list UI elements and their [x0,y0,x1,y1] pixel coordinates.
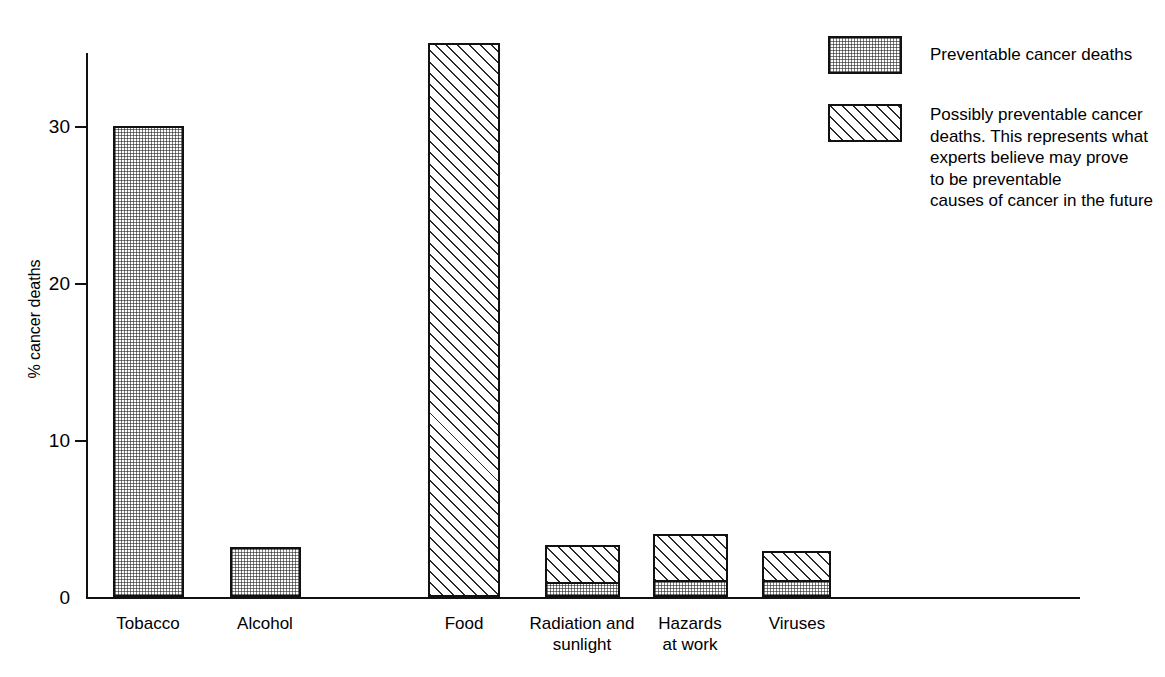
cancer-deaths-bar-chart: 30 20 10 0 % cancer deaths [0,0,1165,677]
y-tick-30 [75,126,88,128]
legend-item-preventable: Preventable cancer deaths [828,36,1158,74]
y-tick-10 [75,440,88,442]
y-axis-line [86,53,88,599]
y-tick-20 [75,283,88,285]
x-label-alcohol: Alcohol [205,613,325,634]
y-tick-label-30: 30 [26,117,70,136]
bar-viruses [762,551,831,597]
bar-radiation-and-sunlight [545,545,620,597]
y-tick-label-0-wrap: 0 [18,588,70,607]
bar-alcohol [230,547,301,597]
x-axis-line [86,597,1080,599]
hatch-swatch-icon [828,104,902,142]
y-tick-label-30-wrap: 30 [18,117,70,136]
bar-radiation-preventable-segment [547,582,618,595]
bar-viruses-preventable-segment [764,580,829,595]
y-tick-label-10-wrap: 10 [18,431,70,450]
bar-food-possibly-preventable-segment [430,45,498,595]
bar-hazards-possibly-preventable-segment [655,536,726,580]
legend-item-possibly-preventable: Possibly preventable cancer deaths. This… [828,104,1158,212]
legend-label-preventable: Preventable cancer deaths [930,36,1132,66]
y-tick-label-0: 0 [26,588,70,607]
dots-swatch-icon [828,36,902,74]
legend: Preventable cancer deaths Possibly preve… [828,36,1158,212]
y-tick-label-10: 10 [26,431,70,450]
bar-alcohol-preventable-segment [232,549,299,595]
y-axis-title: % cancer deaths [26,224,44,414]
bar-viruses-possibly-preventable-segment [764,553,829,580]
bar-food [428,43,500,597]
bar-hazards-preventable-segment [655,580,726,595]
bar-tobacco [113,126,184,597]
x-label-hazards-at-work: Hazards at work [625,613,755,655]
bar-tobacco-preventable-segment [115,128,182,595]
x-label-viruses: Viruses [737,613,857,634]
x-label-tobacco: Tobacco [88,613,208,634]
legend-label-possibly-preventable: Possibly preventable cancer deaths. This… [930,104,1153,212]
bar-hazards-at-work [653,534,728,597]
bar-radiation-possibly-preventable-segment [547,547,618,582]
